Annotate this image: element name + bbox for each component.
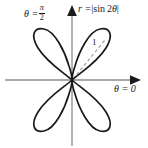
- petal-upper-left: [34, 29, 72, 80]
- y-axis-arrowhead-icon: [67, 5, 77, 16]
- theta-pi-half-lhs: θ =: [24, 8, 38, 19]
- petal-lower-right: [72, 80, 110, 131]
- pi-over-two-fraction: π2: [39, 4, 45, 22]
- sin-function-name: sin: [93, 3, 105, 14]
- equation-lhs: r =: [78, 3, 91, 14]
- plot-canvas: [0, 0, 148, 148]
- fraction-denominator: 2: [39, 14, 45, 23]
- polar-equation-label: r =|sin 2θ|: [78, 4, 119, 15]
- petal-lower-left: [34, 80, 72, 131]
- radius-one-label: 1: [92, 38, 97, 47]
- abs-bar-close-icon: |: [117, 3, 119, 14]
- theta-equals-zero-label: θ = 0: [114, 84, 136, 94]
- theta-pi-over-two-label: θ =π2: [24, 4, 45, 22]
- polar-rose-figure: θ =π2 r =|sin 2θ| θ = 0 1: [0, 0, 148, 148]
